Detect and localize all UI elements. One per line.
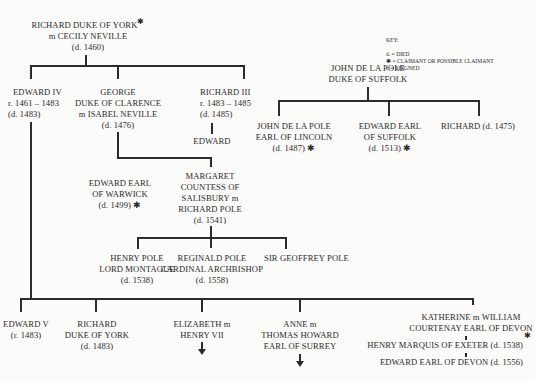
- node-henry-marquis-of-exeter: HENRY MARQUIS OF EXETER (d. 1538)✱: [355, 340, 523, 351]
- connector: [137, 237, 287, 239]
- node-name: REGINALD POLE: [160, 253, 264, 264]
- node-george-duke-of-clarence: GEORGE DUKE OF CLARENCE m ISABEL NEVILLE…: [67, 87, 169, 131]
- node-name: EDWARD: [188, 136, 236, 147]
- node-john-earl-of-lincoln: JOHN DE LA POLE EARL OF LINCOLN (d. 1487…: [246, 121, 342, 154]
- connector: [211, 123, 213, 134]
- node-richard-duke-of-york: RICHARD DUKE OF YORK✱ m CECILY NEVILLE (…: [18, 20, 158, 53]
- node-katherine: KATHERINE m WILLIAM COURTENAY EARL OF DE…: [408, 312, 534, 334]
- node-title: DUKE OF YORK: [60, 330, 134, 341]
- node-name: RICHARD: [60, 319, 134, 330]
- node-name: JOHN DE LA POLE: [246, 121, 342, 132]
- connector: [388, 100, 390, 116]
- node-edward-earl-of-devon: EDWARD EARL OF DEVON (d. 1556): [372, 357, 523, 368]
- node-title: EARL OF SURREY: [256, 341, 344, 352]
- node-death: (d. 1499) ✱: [84, 200, 156, 211]
- node-spouse: m ISABEL NEVILLE: [67, 109, 169, 120]
- node-title: EARL OF LINCOLN: [246, 132, 342, 143]
- node-death: (d. 1460): [18, 42, 158, 53]
- node-title: DUKE OF CLARENCE: [67, 98, 169, 109]
- node-name: HENRY MARQUIS OF EXETER (d. 1538): [367, 340, 523, 350]
- connector: [243, 65, 245, 79]
- node-title: DUKE OF SUFFOLK: [318, 74, 418, 85]
- node-title: SALISBURY m: [170, 193, 250, 204]
- node-edward-v: EDWARD V (r. 1483): [2, 319, 50, 341]
- node-name: EDWARD EARL: [352, 121, 428, 132]
- legend-item-died: d. = DIED: [386, 51, 494, 58]
- node-death: (d. 1483): [8, 109, 62, 120]
- node-edward-earl-of-warwick: EDWARD EARL OF WARWICK (d. 1499) ✱: [84, 178, 156, 211]
- node-reign: (r. 1483): [2, 330, 50, 341]
- connector: [285, 237, 287, 249]
- node-name: RICHARD (d. 1475): [441, 121, 515, 132]
- connector: [117, 132, 119, 159]
- node-sir-geoffrey-pole: SIR GEOFFREY POLE: [264, 253, 349, 264]
- claimant-star-icon: ✱: [137, 17, 144, 26]
- node-name: MARGARET: [170, 171, 250, 182]
- node-anne: ANNE m THOMAS HOWARD EARL OF SURREY: [256, 319, 344, 352]
- legend-title: KEY:: [386, 37, 494, 44]
- node-name: RICHARD III: [200, 87, 251, 98]
- node-spouse: THOMAS HOWARD: [256, 330, 344, 341]
- node-name: SIR GEOFFREY POLE: [264, 253, 349, 264]
- node-name: RICHARD DUKE OF YORK: [31, 20, 137, 30]
- connector: [30, 122, 32, 298]
- node-spouse: COURTENAY EARL OF DEVON: [408, 323, 534, 334]
- connector: [30, 65, 32, 79]
- node-death: (d. 1558): [160, 275, 264, 286]
- connector: [367, 87, 369, 101]
- node-john-duke-of-suffolk: JOHN DE LA POLE DUKE OF SUFFOLK: [318, 63, 418, 85]
- connector: [117, 65, 119, 79]
- node-death: (d. 1476): [67, 120, 169, 131]
- node-reginald-pole: REGINALD POLE CARDINAL ARCHBISHOP (d. 15…: [160, 253, 264, 286]
- node-richard-duke-of-york-jr: RICHARD DUKE OF YORK (d. 1483): [60, 319, 134, 352]
- node-death: (d. 1487) ✱: [246, 143, 342, 154]
- node-richard-iii: RICHARD III r. 1483 – 1485 (d. 1485): [200, 87, 251, 120]
- node-margaret-countess-of-salisbury: MARGARET COUNTESS OF SALISBURY m RICHARD…: [170, 171, 250, 226]
- connector: [30, 65, 244, 67]
- connector: [201, 298, 203, 312]
- node-death: (d. 1541): [170, 215, 250, 226]
- connector: [95, 298, 97, 312]
- connector: [20, 298, 474, 300]
- node-name: KATHERINE m WILLIAM: [408, 312, 534, 323]
- node-richard-1475: RICHARD (d. 1475): [441, 121, 515, 132]
- node-elizabeth: ELIZABETH m HENRY VII: [166, 319, 238, 341]
- node-name: ELIZABETH m: [166, 319, 238, 330]
- node-edward-son-of-richard-iii: EDWARD: [188, 136, 236, 147]
- node-title: COUNTESS OF: [170, 182, 250, 193]
- node-name: JOHN DE LA POLE: [318, 63, 418, 74]
- connector: [278, 100, 480, 102]
- node-name: EDWARD IV: [8, 87, 62, 98]
- connector: [478, 100, 480, 116]
- node-title: CARDINAL ARCHBISHOP: [160, 264, 264, 275]
- node-death: (d. 1483): [60, 341, 134, 352]
- node-name: EDWARD EARL OF DEVON (d. 1556): [372, 357, 523, 368]
- node-edward-earl-of-suffolk: EDWARD EARL OF SUFFOLK (d. 1513) ✱: [352, 121, 428, 154]
- node-name: GEORGE: [67, 87, 169, 98]
- node-title: OF WARWICK: [84, 189, 156, 200]
- connector: [118, 157, 211, 159]
- node-title: OF SUFFOLK: [352, 132, 428, 143]
- node-reign: r. 1461 – 1483: [8, 98, 62, 109]
- node-spouse: HENRY VII: [166, 330, 238, 341]
- connector: [278, 100, 280, 116]
- node-spouse: RICHARD POLE: [170, 204, 250, 215]
- node-name: EDWARD V: [2, 319, 50, 330]
- node-name: ANNE m: [256, 319, 344, 330]
- connector: [472, 298, 474, 305]
- connector: [137, 237, 139, 249]
- node-name: EDWARD EARL: [84, 178, 156, 189]
- node-edward-iv: EDWARD IV r. 1461 – 1483 (d. 1483): [8, 87, 62, 120]
- connector: [210, 157, 212, 167]
- connector: [20, 298, 22, 312]
- node-death: (d. 1485): [200, 109, 251, 120]
- node-death: (d. 1513) ✱: [352, 143, 428, 154]
- connector: [299, 298, 301, 312]
- node-reign: r. 1483 – 1485: [200, 98, 251, 109]
- node-spouse: m CECILY NEVILLE: [18, 31, 158, 42]
